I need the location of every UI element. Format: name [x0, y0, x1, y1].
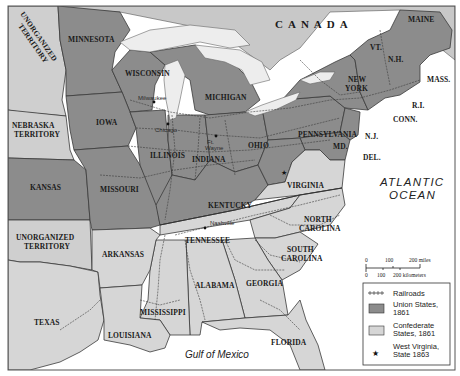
label-north-carolina-2: CAROLINA: [299, 224, 341, 233]
label-pennsylvania: PENNSYLVANIA: [298, 130, 358, 139]
label-canada: CANADA: [275, 18, 353, 30]
svg-text:200 miles: 200 miles: [409, 257, 431, 263]
label-south-carolina-2: CAROLINA: [281, 254, 323, 263]
legend-star-icon: ★: [372, 349, 379, 358]
label-michigan: MICHIGAN: [205, 93, 247, 102]
region-unorganized-territory-north: [8, 6, 66, 116]
label-south-carolina: SOUTH: [287, 245, 314, 254]
label-new-hampshire: N.H.: [388, 55, 403, 64]
label-chicago: Chicago: [155, 127, 178, 133]
legend-label-railroads: Railroads: [393, 289, 425, 298]
label-new-york: NEW: [348, 75, 367, 84]
label-arkansas: ARKANSAS: [102, 250, 144, 259]
label-kentucky: KENTUCKY: [208, 201, 253, 210]
label-missouri: MISSOURI: [100, 185, 139, 194]
legend-label-confederate-2: States, 1861: [393, 329, 435, 338]
label-maryland: MD.: [333, 142, 348, 151]
label-milwaukee: Milwaukee: [138, 95, 167, 101]
label-wisconsin: WISCONSIN: [125, 69, 170, 78]
label-north-carolina: NORTH: [304, 215, 332, 224]
label-nebraska: NEBRASKA: [12, 121, 55, 130]
label-ohio: OHIO: [248, 141, 269, 150]
legend-confederate-swatch: [369, 326, 384, 335]
legend-label-west-virginia-2: State 1863: [393, 350, 429, 359]
city-dot-fort-wayne: [215, 135, 218, 138]
label-unorganized-territory-south-2: TERRITORY: [24, 242, 70, 251]
label-nashville: Nashville: [210, 220, 235, 226]
city-dot-milwaukee: [153, 101, 156, 104]
label-illinois: ILLINOIS: [150, 151, 185, 160]
svg-text:100: 100: [385, 257, 394, 263]
label-vermont: VT.: [370, 43, 382, 52]
svg-text:0: 0: [365, 272, 368, 278]
label-atlantic: ATLANTIC: [379, 176, 444, 188]
label-tennessee: TENNESSEE: [185, 236, 230, 245]
label-gulf-of-mexico: Gulf of Mexico: [185, 349, 249, 360]
svg-text:100: 100: [377, 272, 386, 278]
label-new-jersey: N.J.: [365, 132, 378, 141]
label-alabama: ALABAMA: [195, 281, 235, 290]
label-fort-wayne-2: Wayne: [205, 145, 224, 151]
label-georgia: GEORGIA: [246, 279, 283, 288]
label-kansas: KANSAS: [30, 183, 61, 192]
label-delaware: DEL.: [363, 153, 381, 162]
label-rhode-island: R.I.: [412, 101, 425, 110]
label-mississippi: MISSISSIPPI: [140, 308, 186, 317]
civil-war-map: ★ UNORGANIZED TERRITORY NEBRASKA TERRITO…: [0, 0, 460, 376]
label-maine: MAINE: [408, 15, 434, 24]
label-iowa: IOWA: [96, 118, 118, 127]
label-florida: FLORIDA: [271, 338, 307, 347]
label-louisiana: LOUISIANA: [108, 331, 152, 340]
label-ocean: OCEAN: [389, 189, 436, 201]
label-connecticut: CONN.: [393, 115, 417, 124]
label-indiana: INDIANA: [192, 155, 226, 164]
svg-text:0: 0: [365, 257, 368, 263]
city-dot-nashville: [204, 227, 207, 230]
west-virginia-star-icon: ★: [281, 169, 287, 177]
label-unorganized-territory-south: UNORGANIZED: [16, 233, 75, 242]
legend-union-swatch: [369, 304, 384, 313]
label-nebraska-territory: TERRITORY: [14, 130, 60, 139]
legend: Railroads Union States, 1861 Confederate…: [363, 283, 450, 365]
legend-label-union-2: 1861: [393, 308, 410, 317]
label-texas: TEXAS: [34, 318, 60, 327]
svg-text:200 kilometers: 200 kilometers: [393, 272, 426, 278]
label-new-york-2: YORK: [345, 84, 368, 93]
city-dot-chicago: [167, 123, 170, 126]
label-virginia: VIRGINIA: [287, 181, 325, 190]
label-massachusetts: MASS.: [427, 75, 450, 84]
label-minnesota: MINNESOTA: [68, 35, 115, 44]
